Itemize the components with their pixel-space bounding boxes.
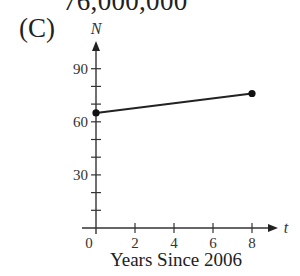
y-axis: 30 60 90 N <box>73 20 103 234</box>
x-tick-label-8: 8 <box>248 235 256 251</box>
x-axis-variable: t <box>284 219 289 236</box>
y-tick-label-60: 60 <box>73 114 88 130</box>
x-axis: 0 2 4 6 8 t <box>82 219 289 251</box>
y-axis-variable: N <box>90 20 103 37</box>
x-axis-arrow-icon <box>268 224 278 232</box>
y-tick-label-30: 30 <box>73 167 88 183</box>
data-point-end <box>248 90 255 97</box>
data-point-start <box>92 109 99 116</box>
x-tick-label-0: 0 <box>85 235 93 251</box>
y-tick-label-90: 90 <box>73 61 88 77</box>
x-axis-title: Years Since 2006 <box>0 250 300 269</box>
line-chart: 30 60 90 N 0 2 4 6 8 t <box>0 0 300 276</box>
y-axis-arrow-icon <box>92 41 100 51</box>
series-line <box>96 93 252 112</box>
series-n <box>92 90 255 117</box>
